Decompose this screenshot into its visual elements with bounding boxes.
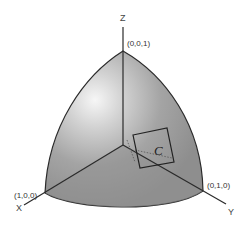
curve-c-label: C	[154, 143, 163, 158]
sphere-octant-diagram: Z X Y (0,0,1) (1,0,0) (0,1,0) C	[0, 0, 251, 225]
x-point-label: (1,0,0)	[14, 191, 37, 200]
y-point-label: (0,1,0)	[207, 181, 230, 190]
x-axis-label: X	[16, 203, 22, 213]
z-point-label: (0,0,1)	[127, 39, 150, 48]
z-axis-label: Z	[120, 13, 126, 23]
y-axis-label: Y	[228, 207, 234, 217]
